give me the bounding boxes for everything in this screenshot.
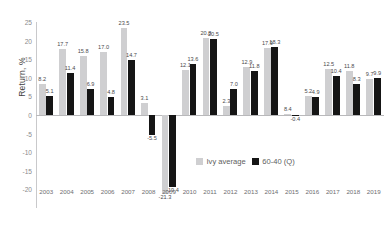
bar-value-label: 17.0 [98, 45, 109, 51]
bar: 23.5 [121, 28, 128, 115]
bar-value-label: -5.5 [147, 136, 157, 142]
bar-value-label: 3.1 [141, 96, 149, 102]
bar: 12.9 [243, 67, 250, 115]
bar-group: 12.510.4 [325, 22, 341, 208]
bar-value-label: 5.1 [46, 89, 54, 95]
bar-value-label: 18.3 [269, 40, 280, 46]
bar: 17.0 [100, 52, 107, 115]
y-axis-tick: 5 [10, 93, 32, 100]
chart-legend: Ivy average60-40 (Q) [196, 157, 295, 166]
bar-value-label: 11.8 [344, 64, 354, 70]
y-axis-tick: -15 [10, 167, 32, 174]
x-axis-tick: 2018 [346, 188, 360, 195]
bar: -21.3 [162, 115, 169, 194]
bar-value-label: 11.4 [65, 66, 75, 72]
plot-area: 2520151050-5-10-15-208.25.117.711.415.86… [36, 22, 384, 208]
x-axis-tick: 2014 [265, 188, 279, 195]
bar: 4.8 [108, 97, 115, 115]
bar-group: 12.911.8 [243, 22, 259, 208]
x-axis-tick: 2009 [162, 188, 176, 195]
bar-group: 5.24.9 [305, 22, 321, 208]
bar-value-label: 8.4 [284, 107, 292, 113]
bar: 7.0 [230, 89, 237, 115]
y-axis-tick: 10 [10, 74, 32, 81]
y-axis-tick: 0 [10, 112, 32, 119]
bar-group: 17.711.4 [59, 22, 75, 208]
y-axis-tick: 25 [10, 19, 32, 26]
x-axis-tick: 2019 [367, 188, 381, 195]
bar: 3.1 [141, 103, 148, 115]
bar: 17.9 [264, 48, 271, 115]
bar: 17.7 [59, 49, 66, 115]
bar: 14.7 [128, 60, 135, 115]
chart-container: Return, % 2520151050-5-10-15-208.25.117.… [0, 0, 391, 245]
x-axis-tick: 2011 [203, 188, 216, 195]
y-axis-tick: -10 [10, 149, 32, 156]
bar: 8.4 [284, 114, 291, 115]
bar-value-label: 13.6 [187, 57, 198, 63]
bar-group: 15.86.9 [79, 22, 95, 208]
bar-value-label: -21.3 [159, 195, 172, 201]
bar: 20.8 [203, 38, 210, 115]
bar-value-label: 15.8 [78, 49, 89, 55]
x-axis-tick: 2012 [224, 188, 238, 195]
bar: 12.1 [182, 70, 189, 115]
bar: 18.3 [271, 47, 278, 115]
bar: 5.1 [46, 96, 53, 115]
bar-group: 12.113.6 [182, 22, 198, 208]
bar-group: 9.79.9 [366, 22, 382, 208]
y-axis-tick: -5 [10, 130, 32, 137]
bar: 2.3 [223, 106, 230, 115]
legend-item: Ivy average [196, 157, 246, 166]
y-axis-tick: 20 [10, 37, 32, 44]
bar: 20.5 [210, 39, 217, 115]
x-axis-tick: 2007 [121, 188, 135, 195]
bar-group: 17.918.3 [264, 22, 280, 208]
bar: 6.9 [87, 89, 94, 115]
bar-value-label: 6.9 [87, 82, 95, 88]
bar-value-label: 7.0 [230, 82, 238, 88]
bar: 15.8 [80, 56, 87, 115]
y-axis-tick: 15 [10, 56, 32, 63]
bar-group: 2.37.0 [223, 22, 239, 208]
y-axis-tick: -20 [10, 186, 32, 193]
bar: 11.8 [346, 71, 353, 115]
bar: -0.4 [292, 115, 299, 116]
bar-group: 8.25.1 [38, 22, 54, 208]
bar-value-label: 8.2 [38, 77, 46, 83]
bar: 11.4 [67, 73, 74, 115]
x-axis-tick: 2008 [142, 188, 156, 195]
bar-value-label: 9.9 [373, 71, 381, 77]
bar: -19.4 [169, 115, 176, 187]
bar: 9.7 [366, 79, 373, 115]
x-axis-tick: 2005 [80, 188, 94, 195]
bar: 13.6 [190, 64, 197, 115]
legend-swatch [252, 158, 259, 165]
bar-value-label: 17.7 [57, 42, 68, 48]
bar-group: -21.3-19.4 [161, 22, 177, 208]
bar: -5.5 [149, 115, 156, 135]
bar-group: 17.04.8 [100, 22, 116, 208]
bar-value-label: 4.9 [312, 90, 320, 96]
bar-value-label: 4.8 [107, 90, 115, 96]
legend-label: Ivy average [207, 157, 246, 166]
x-axis-tick: 2010 [183, 188, 197, 195]
bar: 5.2 [305, 96, 312, 115]
x-axis-tick: 2017 [326, 188, 340, 195]
bar-value-label: 11.8 [249, 64, 259, 70]
x-axis-tick: 2006 [101, 188, 115, 195]
bar: 4.9 [312, 97, 319, 115]
bar-value-label: 14.7 [126, 53, 137, 59]
bar: 10.4 [333, 76, 340, 115]
bar-group: 11.88.3 [346, 22, 362, 208]
bar-value-label: 10.4 [331, 69, 342, 75]
bar-group: 23.514.7 [120, 22, 136, 208]
bar: 11.8 [251, 71, 258, 115]
legend-item: 60-40 (Q) [252, 157, 295, 166]
bar-value-label: 8.3 [353, 77, 361, 83]
bar-value-label: 12.5 [323, 62, 334, 68]
x-axis-tick: 2013 [244, 188, 258, 195]
bar: 8.2 [39, 84, 46, 115]
bar: 8.3 [353, 84, 360, 115]
bar-group: 8.4-0.4 [284, 22, 300, 208]
